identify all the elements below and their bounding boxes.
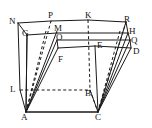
hidden-edges <box>20 20 126 112</box>
vertex-label-B: B <box>85 89 91 98</box>
diagonal-C-Q <box>98 40 130 112</box>
tick-A-L <box>20 90 26 112</box>
edge-P-K <box>51 20 88 21</box>
vertex-label-N: N <box>9 17 16 26</box>
vertex-label-L: L <box>10 85 16 94</box>
diagonal-A-G <box>26 35 27 112</box>
vertex-label-P: P <box>48 11 53 20</box>
edge-E-C <box>95 46 98 112</box>
edge-F-A <box>26 48 58 112</box>
vertex-label-A: A <box>21 113 28 122</box>
vertex-label-Q: Q <box>131 36 138 45</box>
vertex-label-D: D <box>133 47 140 56</box>
vertex-label-F: F <box>58 55 63 64</box>
edge-R-C <box>98 22 126 112</box>
edge-F-E <box>58 46 95 48</box>
edge-N-L <box>18 23 20 90</box>
vertex-label-C: C <box>95 113 101 122</box>
vertex-label-E: E <box>97 41 103 50</box>
hidden-edge-K-B <box>88 20 90 90</box>
outer-box-edges <box>18 20 131 112</box>
geometry-figure: N P K R G M O H Q E D F L B A C <box>0 0 152 128</box>
vertex-label-O: O <box>56 33 63 42</box>
diagonal-A-O <box>26 40 57 112</box>
vertex-label-R: R <box>124 15 130 24</box>
edge-G-O <box>27 33 57 35</box>
edge-K-R <box>88 20 126 22</box>
vertex-label-K: K <box>85 11 92 20</box>
diagonals-from-A <box>26 31 57 112</box>
diagonal-A-M <box>26 31 57 112</box>
edge-N-P <box>18 21 51 23</box>
vertex-label-G: G <box>22 29 29 38</box>
